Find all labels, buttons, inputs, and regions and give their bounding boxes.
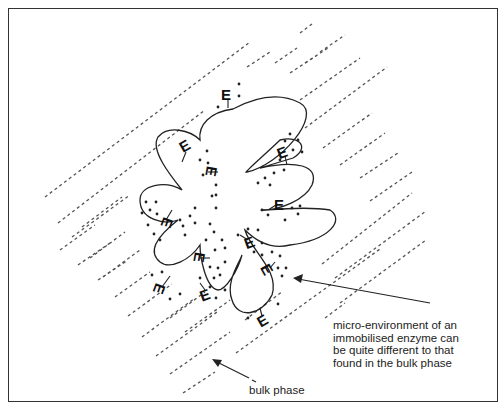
caption-line-1: micro-environment of an (333, 319, 459, 332)
enzyme-e6: E (157, 210, 176, 230)
svg-text:E: E (157, 215, 176, 230)
bulk-phase-arrow (212, 359, 256, 382)
enzyme-e8: E (240, 233, 257, 252)
svg-text:E: E (190, 251, 208, 264)
enzyme-e1: E (221, 86, 231, 108)
bulk-phase-label: bulk phase (249, 384, 305, 397)
svg-text:E: E (176, 136, 193, 156)
caption-line-2: immobilised enzyme can (333, 332, 459, 345)
svg-text:E: E (242, 233, 257, 252)
enzyme-e7: E (190, 251, 210, 264)
enzyme-e3: E (202, 165, 220, 178)
svg-text:E: E (275, 143, 290, 162)
svg-text:E: E (274, 196, 284, 213)
enzyme-molecules: E E E E E E E E E E E E (150, 86, 290, 330)
enzyme-e10: E (150, 276, 170, 296)
caption-line-4: found in the bulk phase (333, 357, 459, 370)
micro-environment-caption: micro-environment of an immobilised enzy… (333, 319, 459, 369)
svg-text:E: E (257, 261, 277, 278)
svg-text:E: E (150, 281, 169, 296)
enzyme-e5: E (268, 196, 284, 213)
svg-text:E: E (221, 86, 231, 103)
caption-line-3: be quite different to that (333, 344, 459, 357)
enzyme-e2: E (176, 136, 193, 162)
svg-text:E: E (254, 311, 271, 331)
enzyme-e9: E (257, 261, 277, 278)
svg-text:E: E (202, 165, 220, 178)
micro-environment-arrow (293, 274, 430, 303)
